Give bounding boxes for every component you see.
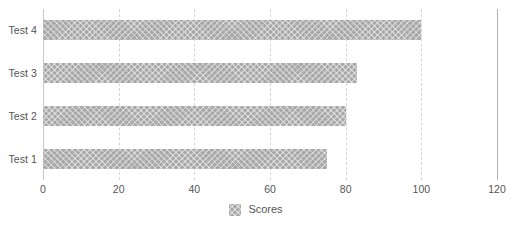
bar-row xyxy=(43,20,497,40)
bar-row xyxy=(43,63,497,83)
y-axis-label-test-3: Test 3 xyxy=(0,67,37,79)
legend-swatch-scores xyxy=(229,204,241,216)
x-axis-tick-80: 80 xyxy=(340,183,352,196)
x-axis-tick-120: 120 xyxy=(488,183,506,196)
bar-test-3 xyxy=(43,63,357,83)
bar-chart: Test 4Test 3Test 2Test 1 020406080100120… xyxy=(0,0,512,226)
x-axis-labels: 020406080100120 xyxy=(43,183,497,199)
chart-legend: Scores xyxy=(0,203,512,216)
legend-label-scores: Scores xyxy=(248,203,282,216)
x-axis-tick-100: 100 xyxy=(413,183,431,196)
bar-row xyxy=(43,106,497,126)
plot-area xyxy=(43,9,497,180)
y-axis-label-test-1: Test 1 xyxy=(0,153,37,165)
x-axis-tick-40: 40 xyxy=(188,183,200,196)
y-axis-label-test-2: Test 2 xyxy=(0,110,37,122)
bar-row xyxy=(43,149,497,169)
x-axis-tick-60: 60 xyxy=(264,183,276,196)
bar-test-1 xyxy=(43,149,327,169)
bar-test-4 xyxy=(43,20,421,40)
y-axis-label-test-4: Test 4 xyxy=(0,24,37,36)
x-axis-tick-20: 20 xyxy=(113,183,125,196)
gridline-120 xyxy=(497,9,498,180)
x-axis-tick-0: 0 xyxy=(40,183,46,196)
y-axis-labels: Test 4Test 3Test 2Test 1 xyxy=(0,9,37,180)
bar-test-2 xyxy=(43,106,346,126)
